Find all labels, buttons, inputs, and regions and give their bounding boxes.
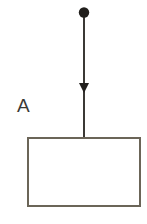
arrowhead-down-icon	[79, 83, 89, 93]
label-a: A	[17, 95, 30, 117]
block-rectangle	[28, 138, 140, 206]
pivot-dot	[79, 7, 89, 17]
figure-canvas: A	[0, 0, 147, 224]
